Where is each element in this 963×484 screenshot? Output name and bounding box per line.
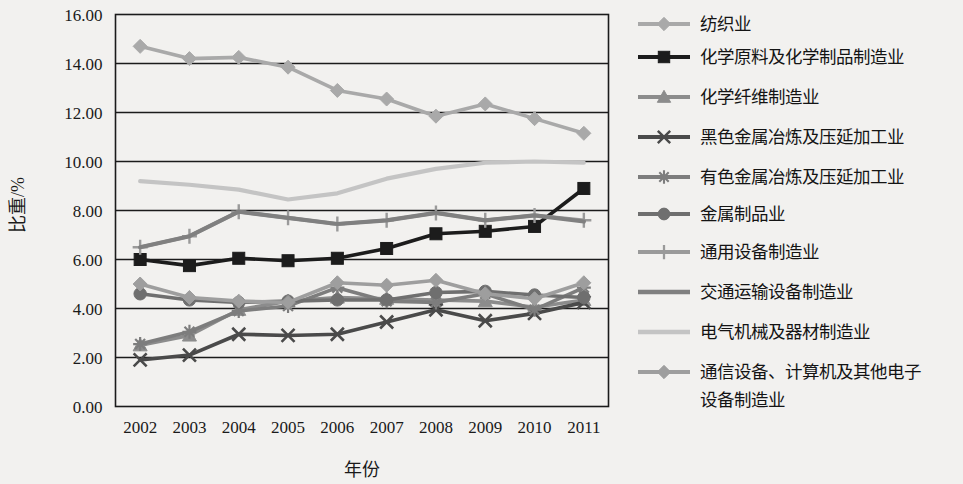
x-axis-tick-label: 2005 <box>271 418 305 437</box>
series-8 <box>140 162 584 200</box>
y-axis-tick-label: 14.00 <box>64 55 102 74</box>
x-axis-tick-label: 2006 <box>320 418 354 437</box>
diamond-marker <box>478 97 492 111</box>
legend-item-0[interactable]: 纺织业 <box>638 14 751 34</box>
diamond-marker <box>577 126 591 140</box>
diamond-marker <box>429 109 443 123</box>
square-marker <box>233 252 245 264</box>
legend-label: 交通运输设备制造业 <box>700 282 853 302</box>
legend-label: 黑色金属冶炼及压延加工业 <box>700 127 904 147</box>
square-marker <box>430 228 442 240</box>
legend-label: 通用设备制造业 <box>700 242 819 262</box>
y-axis-tick-label: 12.00 <box>64 104 102 123</box>
square-marker <box>331 252 343 264</box>
x-axis-tick-label: 2010 <box>518 418 552 437</box>
legend-item-5[interactable]: 金属制品业 <box>638 204 785 224</box>
series-line <box>140 46 584 133</box>
diamond-marker <box>657 17 670 30</box>
circle-marker <box>380 294 392 306</box>
x-axis-tick-label: 2007 <box>370 418 405 437</box>
circle-marker <box>430 286 442 298</box>
x-axis-tick-label: 2003 <box>172 418 206 437</box>
legend-item-1[interactable]: 化学原料及化学制品制造业 <box>638 47 904 67</box>
x-axis-title: 年份 <box>344 460 380 480</box>
square-marker <box>134 254 146 266</box>
square-marker <box>578 182 590 194</box>
y-axis-tick-label: 4.00 <box>73 300 103 319</box>
y-axis-tick-labels: 16.0014.0012.0010.008.006.004.002.000.00 <box>64 6 102 417</box>
legend-item-3[interactable]: 黑色金属冶炼及压延加工业 <box>638 127 904 147</box>
y-axis-title: 比重/% <box>8 177 28 233</box>
y-axis-tick-label: 6.00 <box>73 251 103 270</box>
legend-label: 纺织业 <box>700 14 751 34</box>
legend-item-7[interactable]: 交通运输设备制造业 <box>638 282 853 302</box>
chart-canvas: 16.0014.0012.0010.008.006.004.002.000.00… <box>0 0 963 484</box>
asterisk-marker <box>133 337 147 351</box>
legend: 纺织业化学原料及化学制品制造业化学纤维制造业黑色金属冶炼及压延加工业有色金属冶炼… <box>638 14 921 410</box>
data-series-group <box>133 39 592 366</box>
x-axis-tick-labels: 2002200320042005200620072008200920102011 <box>123 418 600 437</box>
line-chart: 16.0014.0012.0010.008.006.004.002.000.00… <box>0 0 963 484</box>
y-axis-tick-label: 10.00 <box>64 153 102 172</box>
y-axis-tick-label: 0.00 <box>73 398 103 417</box>
diamond-marker <box>281 60 295 74</box>
y-axis-tick-label: 16.00 <box>64 6 102 25</box>
x-axis-tick-label: 2008 <box>419 418 453 437</box>
series-0 <box>133 39 591 140</box>
x-axis-tick-label: 2009 <box>468 418 502 437</box>
series-line <box>140 302 584 360</box>
x-axis-tick-label: 2004 <box>222 418 257 437</box>
square-marker <box>658 51 669 62</box>
legend-label: 有色金属冶炼及压延加工业 <box>700 167 904 187</box>
plus-marker <box>657 245 671 259</box>
legend-item-6[interactable]: 通用设备制造业 <box>638 242 819 262</box>
series-1 <box>134 182 590 271</box>
circle-marker <box>658 208 670 220</box>
legend-item-2[interactable]: 化学纤维制造业 <box>638 87 819 107</box>
legend-label: 化学纤维制造业 <box>700 87 819 107</box>
legend-label: 通信设备、计算机及其他电子 <box>700 362 921 382</box>
square-marker <box>381 242 393 254</box>
diamond-marker <box>133 39 147 53</box>
circle-marker <box>331 294 343 306</box>
y-axis-tick-label: 2.00 <box>73 349 103 368</box>
square-marker <box>282 255 294 267</box>
legend-label: 电气机械及器材制造业 <box>700 322 870 342</box>
diamond-marker <box>232 50 246 64</box>
square-marker <box>183 260 195 272</box>
asterisk-marker <box>182 325 196 339</box>
x-axis-tick-label: 2002 <box>123 418 157 437</box>
diamond-marker <box>657 365 670 378</box>
legend-label: 金属制品业 <box>700 204 785 224</box>
diamond-marker <box>380 92 394 106</box>
diamond-marker <box>429 273 443 287</box>
series-line <box>140 162 584 200</box>
diamond-marker <box>133 277 147 291</box>
diamond-marker <box>528 112 542 126</box>
legend-item-4[interactable]: 有色金属冶炼及压延加工业 <box>638 167 904 187</box>
asterisk-marker <box>657 170 670 183</box>
y-axis-tick-label: 8.00 <box>73 202 103 221</box>
diamond-marker <box>330 83 344 97</box>
legend-label-line2: 设备制造业 <box>700 390 785 410</box>
legend-label: 化学原料及化学制品制造业 <box>700 47 904 67</box>
legend-item-9[interactable]: 通信设备、计算机及其他电子设备制造业 <box>638 362 921 410</box>
circle-marker <box>578 291 590 303</box>
legend-item-8[interactable]: 电气机械及器材制造业 <box>638 322 870 342</box>
x-axis-tick-label: 2011 <box>567 418 600 437</box>
diamond-marker <box>380 278 394 292</box>
